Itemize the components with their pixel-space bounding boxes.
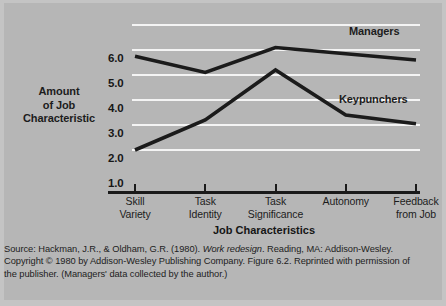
source-note: Source: Hackman, J.R., & Oldham, G.R. (1… [4,243,436,280]
y-axis-title-line-3: Characteristic [10,112,108,126]
source-note-title: Work redesign [203,244,262,254]
y-axis-title: Amount of Job Characteristic [10,85,108,126]
source-note-prefix: Source: Hackman, J.R., & Oldham, G.R. (1… [4,244,203,254]
y-axis-title-line-1: Amount [10,85,108,99]
source-note-line-1: Source: Hackman, J.R., & Oldham, G.R. (1… [4,243,436,255]
series-label-managers: Managers [349,25,400,37]
x-tick-2 [275,184,277,191]
x-tick-3 [345,184,347,191]
x-tick-0 [134,184,136,191]
series-line-keypunchers [135,70,416,150]
x-axis-title: Job Characteristics [108,224,420,236]
x-tick-label-line: Significance [233,208,319,221]
figure-page: Amount of Job Characteristic 1.02.03.04.… [0,0,446,306]
x-tick-label-feedback-from-job: Feedbackfrom Job [373,195,446,220]
x-axis-line [108,191,420,194]
y-axis-title-line-2: of Job [10,99,108,113]
chart-figure: Amount of Job Characteristic 1.02.03.04.… [4,3,442,238]
x-tick-label-line: Feedback [373,195,446,208]
x-tick-label-line: from Job [373,208,446,221]
source-note-line-2: Copyright © 1980 by Addison-Wesley Publi… [4,255,436,267]
x-tick-4 [415,184,417,191]
plot-area: 1.02.03.04.05.06.0 Managers Keypunchers [108,8,420,193]
series-label-keypunchers: Keypunchers [339,93,408,105]
x-tick-1 [204,184,206,191]
source-note-line-3: the publisher. (Managers' data collected… [4,268,436,280]
source-note-suffix: . Reading, MA: Addison-Wesley. [262,244,393,254]
